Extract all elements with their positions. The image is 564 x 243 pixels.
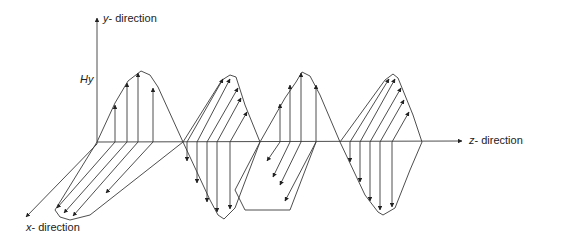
lobe-x-4: [340, 74, 422, 142]
lobe-y-1: [97, 71, 183, 142]
y-axis-label: y- direction: [103, 13, 157, 24]
y-axis-text: - direction: [109, 12, 157, 24]
lobe-y-2: [183, 142, 260, 219]
field-label-hy: Hy: [80, 74, 93, 85]
lobe-x-1: [55, 142, 183, 220]
z-axis-label: z- direction: [469, 135, 523, 146]
lobe-x-2: [183, 75, 260, 142]
z-axis-text: - direction: [475, 134, 523, 146]
lobe-y-4: [340, 142, 422, 215]
z-axis: [97, 141, 462, 142]
x-axis: [26, 144, 97, 217]
wave-diagram: [0, 0, 564, 243]
lobe-y-3: [260, 72, 340, 142]
field-label-text: Hy: [80, 73, 93, 85]
x-axis-label: x- direction: [26, 222, 80, 233]
x-axis-text: - direction: [32, 221, 80, 233]
